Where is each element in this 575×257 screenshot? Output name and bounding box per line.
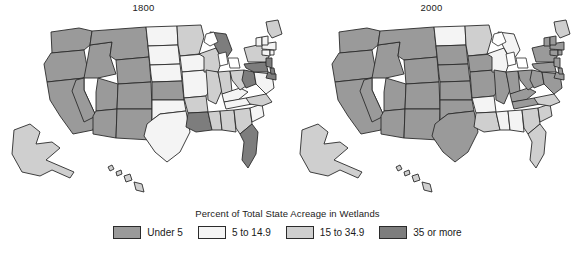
state-nd (434, 26, 466, 46)
state-ia (180, 54, 206, 72)
state-la (186, 112, 212, 132)
state-nc (534, 94, 560, 106)
legend-items: Under 5 5 to 14.9 15 to 34.9 35 or more (0, 226, 575, 239)
maps-row: 1800 2000 (0, 0, 575, 205)
legend-item-15-to-34-9: 15 to 34.9 (286, 226, 364, 239)
great-lake-2 (218, 52, 228, 66)
legend-swatch-5-to-14-9 (198, 226, 226, 239)
state-nh (262, 36, 268, 45)
legend-swatch-35-or-more (379, 226, 407, 239)
map-panel-1800: 1800 (0, 0, 287, 205)
state-vt (544, 37, 550, 46)
state-nd (146, 26, 178, 46)
us-map-2000 (288, 12, 575, 204)
state-ne (438, 64, 470, 82)
state-de (558, 68, 563, 74)
state-la (474, 112, 500, 132)
state-ks (440, 81, 472, 100)
state-or (332, 50, 376, 82)
state-ne (150, 64, 182, 82)
state-co (117, 82, 152, 109)
state-ar (184, 96, 208, 113)
state-sc (538, 104, 552, 122)
legend-title: Percent of Total State Acreage in Wetlan… (0, 208, 575, 219)
state-ct (550, 50, 558, 56)
state-nh (550, 36, 556, 45)
wetlands-choropleth-figure: 1800 2000 Percent of Total State Acreage… (0, 0, 575, 257)
state-wy (116, 57, 151, 84)
state-ri (558, 50, 562, 55)
great-lake-3 (516, 58, 528, 68)
state-mn (465, 25, 492, 56)
state-vt (256, 37, 262, 46)
state-nj (266, 58, 272, 68)
state-ar (472, 96, 496, 113)
state-ia (468, 54, 494, 72)
state-hi-island-4 (134, 182, 144, 192)
state-hi-island-4 (422, 182, 432, 192)
state-wy (404, 57, 439, 84)
state-ut (384, 78, 406, 111)
state-ak (12, 124, 74, 178)
legend-label-5-to-14-9: 5 to 14.9 (232, 227, 271, 238)
state-ks (152, 81, 184, 100)
legend-label-under-5: Under 5 (147, 227, 183, 238)
state-co (405, 82, 440, 109)
state-al (508, 110, 524, 132)
state-sd (436, 45, 468, 65)
state-hi-island-2 (116, 170, 122, 176)
state-ak (300, 124, 362, 178)
legend-swatch-15-to-34-9 (286, 226, 314, 239)
legend-swatch-under-5 (113, 226, 141, 239)
state-wa (339, 28, 380, 53)
great-lake-3 (228, 58, 240, 68)
state-ri (270, 50, 274, 55)
state-al (220, 110, 236, 132)
state-me (554, 20, 570, 38)
state-wa (51, 28, 92, 53)
great-lake-2 (506, 52, 516, 66)
state-ct (262, 50, 270, 56)
state-hi (396, 165, 402, 171)
legend-label-35-or-more: 35 or more (413, 227, 461, 238)
state-az (93, 109, 117, 138)
state-nc (246, 94, 272, 106)
state-sd (148, 45, 180, 65)
state-mn (177, 25, 204, 56)
us-map-1800 (0, 12, 287, 204)
state-hi-island-3 (412, 174, 420, 182)
state-az (381, 109, 405, 138)
legend-item-under-5: Under 5 (113, 226, 183, 239)
state-or (44, 50, 88, 82)
legend-item-5-to-14-9: 5 to 14.9 (198, 226, 271, 239)
legend-label-15-to-34-9: 15 to 34.9 (320, 227, 364, 238)
legend: Percent of Total State Acreage in Wetlan… (0, 204, 575, 257)
state-hi-island-2 (404, 170, 410, 176)
state-de (270, 68, 275, 74)
state-ut (96, 78, 118, 111)
state-sc (250, 104, 264, 122)
state-nj (554, 58, 560, 68)
state-hi-island-3 (124, 174, 132, 182)
state-me (266, 20, 282, 38)
map-panel-2000: 2000 (288, 0, 575, 205)
legend-item-35-or-more: 35 or more (379, 226, 461, 239)
state-hi (108, 165, 114, 171)
